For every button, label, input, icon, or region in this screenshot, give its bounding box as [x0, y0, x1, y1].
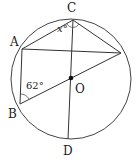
- label-d: D: [63, 145, 73, 157]
- label-c: C: [67, 2, 76, 14]
- center-dot-o: [69, 76, 74, 81]
- label-a: A: [10, 36, 19, 48]
- angle-arc-b: [20, 94, 29, 99]
- angle-label-62: 62°: [26, 81, 44, 91]
- circle-diagram: [0, 0, 136, 160]
- label-b: B: [8, 108, 17, 120]
- label-o: O: [75, 83, 85, 95]
- segment-ab: [20, 49, 22, 104]
- angle-label-x: x°: [57, 24, 68, 34]
